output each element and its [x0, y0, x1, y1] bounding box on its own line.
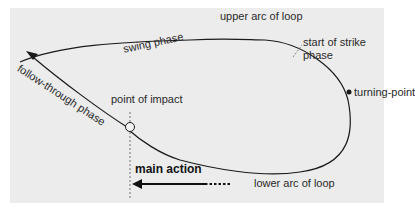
- label-upper-arc: upper arc of loop: [220, 10, 303, 22]
- label-lower-arc: lower arc of loop: [254, 177, 335, 189]
- label-start-strike-line2: phase: [303, 49, 333, 61]
- label-turning-point: turning-point: [354, 86, 415, 98]
- impact-point-circle: [126, 123, 135, 132]
- label-main-action: main action: [135, 163, 202, 175]
- turning-point-dot: [347, 90, 352, 95]
- label-point-of-impact: point of impact: [111, 93, 183, 105]
- main-action-arrowhead: [132, 179, 142, 189]
- label-start-strike-line1: start of strike: [303, 36, 366, 48]
